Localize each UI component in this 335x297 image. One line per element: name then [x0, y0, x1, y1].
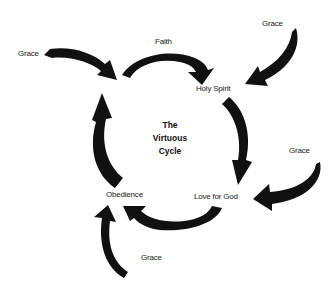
cycle-title-line-3: Cycle	[145, 145, 195, 158]
arrow-grace-top-right	[245, 28, 298, 86]
arrow-grace-top-left	[44, 48, 117, 80]
cycle-title-line-1: The	[145, 119, 195, 132]
arrow-love-to-obedience	[123, 206, 222, 230]
arrow-obedience-to-faith	[92, 93, 123, 188]
arrow-holy-spirit-to-love	[222, 97, 252, 185]
node-love-for-god: Love for God	[194, 192, 238, 201]
grace-label-bottom: Grace	[141, 253, 162, 262]
node-faith: Faith	[155, 37, 172, 46]
arrow-grace-right	[253, 162, 321, 211]
node-obedience: Obedience	[106, 190, 143, 199]
node-holy-spirit: Holy Spirit	[196, 84, 230, 93]
cycle-title-line-2: Virtuous	[145, 132, 195, 145]
grace-label-top-left: Grace	[18, 49, 39, 58]
grace-label-right: Grace	[289, 146, 310, 155]
arrow-grace-bottom	[94, 205, 128, 278]
cycle-title: The Virtuous Cycle	[145, 119, 195, 158]
arrow-faith-to-holy-spirit	[122, 53, 214, 85]
grace-label-top-right: Grace	[262, 19, 283, 28]
